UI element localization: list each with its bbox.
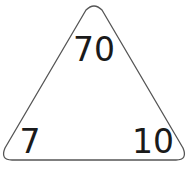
fact-triangle: 70 7 10	[0, 0, 188, 169]
bottom-left-number: 7	[20, 122, 41, 161]
bottom-right-number: 10	[132, 122, 174, 161]
top-number: 70	[73, 30, 115, 69]
